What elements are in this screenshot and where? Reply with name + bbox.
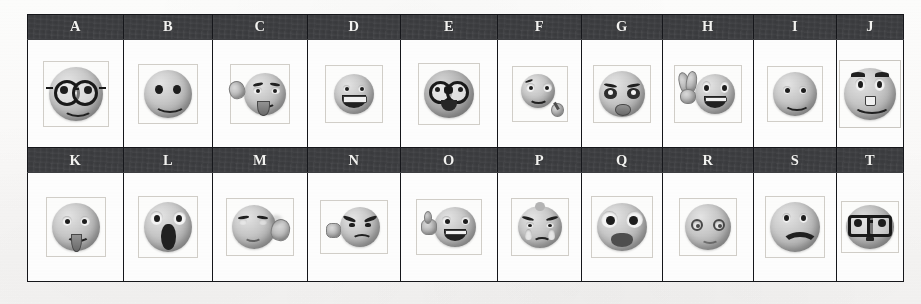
image-frame-f [512, 66, 568, 122]
image-frame-a [43, 61, 109, 127]
image-cell-o [401, 173, 498, 282]
header-label-c: C [255, 18, 266, 34]
image-cell-h [663, 39, 754, 148]
image-cell-c [213, 39, 308, 148]
cell-inner-o [401, 177, 497, 277]
image-frame-q [591, 196, 653, 258]
smiley-worried-frown-icon [770, 202, 820, 252]
cell-inner-r [663, 177, 753, 277]
cell-inner-c [213, 44, 307, 144]
smiley-classic-smile-icon [144, 70, 192, 118]
smiley-dizzy-spiral-eyes-icon [685, 204, 731, 250]
cell-inner-k [28, 177, 123, 277]
image-cell-p [498, 173, 582, 282]
emoticon-grid: A B C D E F G H I J [27, 14, 904, 282]
header-label-s: S [791, 152, 800, 168]
image-cell-e [401, 39, 498, 148]
image-frame-r [679, 198, 737, 256]
cell-inner-l [124, 177, 212, 277]
image-cell-g [582, 39, 663, 148]
header-label-d: D [349, 18, 360, 34]
header-label-a: A [70, 18, 81, 34]
image-cell-d [308, 39, 401, 148]
image-cell-s [754, 173, 837, 282]
header-cell-k: K [28, 148, 124, 173]
image-cell-q [582, 173, 663, 282]
emoticon-reference-table: A B C D E F G H I J [27, 14, 893, 282]
header-cell-c: C [213, 15, 308, 40]
header-cell-o: O [401, 148, 498, 173]
image-cell-m [213, 173, 308, 282]
smiley-screaming-icon [144, 202, 192, 252]
image-cell-r [663, 173, 754, 282]
image-frame-t [841, 201, 899, 253]
smiley-wearing-mask-icon [424, 70, 474, 118]
cell-inner-t [837, 177, 903, 277]
cell-inner-q [582, 177, 662, 277]
header-label-h: H [702, 18, 714, 34]
header-label-r: R [703, 152, 714, 168]
header-cell-g: G [582, 15, 663, 40]
image-cell-t [837, 173, 904, 282]
smiley-big-grin-teeth-icon [334, 74, 374, 114]
image-frame-p [511, 198, 569, 256]
cell-inner-n [308, 177, 400, 277]
header-label-k: K [70, 152, 82, 168]
header-cell-j: J [837, 15, 904, 40]
image-cell-i [754, 39, 837, 148]
smiley-sad-pouting-icon [599, 71, 645, 117]
header-cell-r: R [663, 148, 754, 173]
smiley-tongue-out-icon [52, 203, 100, 251]
smiley-crying-icon [518, 206, 562, 248]
header-row-2: K L M N O P Q R S T [28, 148, 904, 173]
header-cell-n: N [308, 148, 401, 173]
image-cell-b [124, 39, 213, 148]
cell-inner-b [124, 44, 212, 144]
image-frame-g [593, 65, 651, 123]
image-cell-f [498, 39, 582, 148]
header-cell-h: H [663, 15, 754, 40]
cell-inner-f [498, 44, 581, 144]
smiley-shocked-big-eyes-icon [597, 203, 647, 251]
smiley-rectangular-glasses-icon [846, 205, 894, 249]
smiley-waving-tongue-icon [244, 73, 286, 115]
smiley-listening-hand-ear-icon [232, 205, 276, 249]
image-frame-e [418, 63, 480, 125]
header-cell-p: P [498, 148, 582, 173]
header-label-g: G [616, 18, 628, 34]
header-label-i: I [792, 18, 798, 34]
cell-inner-e [401, 44, 497, 144]
image-frame-i [767, 66, 823, 122]
image-row-1 [28, 39, 904, 148]
cell-inner-j [837, 44, 903, 144]
image-cell-k [28, 173, 124, 282]
header-cell-t: T [837, 148, 904, 173]
header-label-p: P [535, 152, 544, 168]
header-row-1: A B C D E F G H I J [28, 15, 904, 40]
smiley-raised-brows-grin-icon [844, 68, 896, 120]
cell-inner-h [663, 44, 753, 144]
header-label-f: F [535, 18, 544, 34]
grid-body: A B C D E F G H I J [28, 15, 904, 282]
smiley-happy-simple-icon [773, 72, 817, 116]
cell-inner-m [213, 177, 307, 277]
smiley-angry-fist-icon [340, 207, 380, 247]
image-frame-k [46, 197, 106, 257]
image-frame-l [138, 196, 198, 258]
smiley-with-microphone-icon [521, 74, 555, 108]
header-label-b: B [163, 18, 173, 34]
image-frame-n [320, 200, 388, 254]
cell-inner-g [582, 44, 662, 144]
image-frame-d [325, 65, 383, 123]
image-frame-m [226, 198, 294, 256]
header-cell-a: A [28, 15, 124, 40]
smiley-thumbs-up-laughing-icon [434, 207, 476, 247]
image-frame-b [138, 64, 198, 124]
header-label-o: O [443, 152, 455, 168]
header-cell-m: M [213, 148, 308, 173]
header-cell-s: S [754, 148, 837, 173]
header-cell-l: L [124, 148, 213, 173]
cell-inner-a [28, 44, 123, 144]
cell-inner-p [498, 177, 581, 277]
header-cell-q: Q [582, 148, 663, 173]
